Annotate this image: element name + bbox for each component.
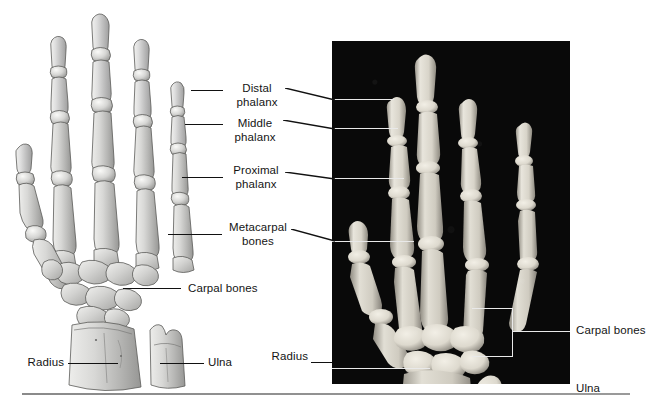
label-radius: Radius: [14, 356, 64, 370]
leader-metacarpal-bones-xray: [332, 241, 414, 242]
label-carpal-bones-xray: Carpal bones: [576, 324, 656, 338]
label-middle-phalanx: Middle phalanx: [226, 117, 284, 144]
leader-radius-xray-outer: [311, 362, 332, 363]
label-radius-xray: Radius: [256, 350, 308, 364]
leader-ulna-left: [160, 363, 204, 364]
leader-radius-left: [68, 363, 118, 364]
leader-carpal-bones-left: [123, 288, 181, 289]
leader-middle-phalanx-right: [283, 120, 335, 134]
leader-metacarpal-bones-right: [291, 229, 335, 245]
label-distal-phalanx: Distal phalanx: [228, 82, 286, 109]
leader-carpal-bones-xray: [512, 331, 570, 332]
leader-radius-xray: [332, 368, 430, 369]
hand-skeleton-drawing: [0, 0, 330, 392]
hand-radiograph-panel: [332, 41, 570, 384]
label-carpal-bones: Carpal bones: [188, 282, 278, 296]
leader-middle-phalanx-left: [185, 124, 223, 125]
hand-skeleton-illustration: [0, 0, 330, 392]
leader-middle-phalanx-xray: [332, 128, 398, 129]
leader-distal-phalanx-xray: [332, 99, 394, 100]
xray-leader-overlay: [332, 41, 570, 384]
leader-proximal-phalanx-left: [182, 177, 223, 178]
label-ulna: Ulna: [208, 356, 258, 370]
label-metacarpal-bones: Metacarpal bones: [224, 221, 292, 248]
carpal-bones-bracket-xray: [472, 308, 513, 357]
leader-distal-phalanx-left: [191, 90, 223, 91]
leader-distal-phalanx-right: [285, 88, 335, 104]
leader-proximal-phalanx-right: [285, 172, 335, 186]
footer-rule: [22, 393, 630, 395]
label-proximal-phalanx: Proximal phalanx: [226, 164, 286, 191]
anatomy-figure: Distal phalanx Middle phalanx Proximal p…: [0, 0, 658, 406]
leader-proximal-phalanx-xray: [332, 178, 404, 179]
leader-metacarpal-bones-left: [168, 234, 222, 235]
